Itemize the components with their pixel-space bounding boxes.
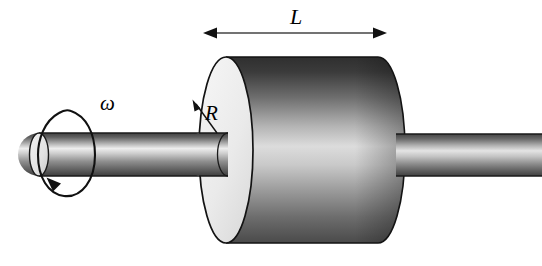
length-label: L <box>289 4 302 29</box>
shaft-stub-barrel <box>189 133 229 176</box>
angular-velocity-label: ω <box>100 91 115 115</box>
length-dimension-arrow: L <box>203 4 387 39</box>
shaft-stub-front <box>189 133 229 176</box>
rotor-diagram-canvas: L R ω <box>0 0 542 266</box>
radius-label: R <box>204 101 218 125</box>
right-shaft-barrel <box>396 134 542 176</box>
length-arrowhead-right <box>373 28 387 39</box>
left-shaft <box>18 133 218 176</box>
rotor-diagram: L R ω <box>0 0 542 266</box>
length-arrowhead-left <box>203 28 217 39</box>
right-shaft <box>396 134 542 176</box>
